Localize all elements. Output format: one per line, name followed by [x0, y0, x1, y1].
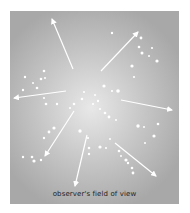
- star-dot: [78, 129, 81, 132]
- star-dot: [40, 78, 43, 81]
- star-dot: [32, 159, 35, 162]
- star-dot: [102, 84, 105, 87]
- star-dot: [155, 59, 158, 62]
- star-dot: [152, 134, 155, 137]
- star-dot: [133, 76, 135, 78]
- star-dot: [43, 70, 46, 73]
- star-dot: [87, 137, 89, 139]
- star-dot: [32, 82, 34, 84]
- arrow-icon: [121, 100, 172, 110]
- star-dot: [140, 37, 143, 40]
- star-dot: [132, 172, 135, 175]
- star-dot: [31, 156, 34, 159]
- star-dot: [144, 142, 146, 144]
- star-dot: [116, 89, 120, 93]
- star-dot: [73, 103, 76, 106]
- star-dot: [52, 126, 55, 129]
- star-dot: [124, 158, 127, 161]
- star-dot: [131, 167, 134, 170]
- star-dot: [109, 138, 111, 140]
- star-dot: [111, 32, 113, 34]
- arrow-icon: [115, 143, 156, 176]
- star-dot: [127, 162, 129, 164]
- arrow-icon: [45, 111, 74, 156]
- star-dot: [44, 77, 46, 79]
- star-expansion-diagram: [0, 0, 190, 213]
- star-dot: [141, 52, 144, 55]
- star-dot: [88, 153, 90, 155]
- arrow-icon: [75, 135, 87, 186]
- star-dot: [45, 103, 48, 106]
- star-dot: [98, 145, 101, 148]
- star-dot: [120, 155, 122, 157]
- star-dot: [111, 90, 113, 92]
- star-dot: [69, 107, 71, 109]
- star-dot: [81, 98, 84, 101]
- star-dot: [138, 46, 141, 49]
- star-dot: [115, 119, 117, 121]
- star-dot: [40, 159, 42, 161]
- arrow-icon: [52, 19, 73, 69]
- star-dot: [118, 150, 121, 153]
- star-dot: [83, 91, 85, 93]
- star-dot: [92, 103, 94, 105]
- star-dot: [88, 147, 91, 150]
- star-dot: [143, 126, 145, 128]
- diagram-caption: observer's field of view: [10, 190, 179, 198]
- motion-arrows: [14, 19, 172, 186]
- star-dot: [99, 108, 101, 110]
- star-dot: [48, 131, 51, 134]
- star-dot: [94, 94, 96, 96]
- star-dot: [97, 100, 99, 102]
- star-dot: [105, 147, 107, 149]
- star-dot: [43, 97, 45, 99]
- star-dot: [56, 103, 58, 105]
- star-dot: [136, 124, 139, 127]
- star-dot: [104, 112, 107, 115]
- star-dot: [22, 89, 24, 91]
- star-dot: [24, 76, 26, 78]
- arrow-icon: [14, 91, 66, 98]
- star-dot: [130, 64, 133, 67]
- star-dot: [43, 137, 45, 139]
- star-dot: [108, 116, 111, 119]
- star-dot: [22, 156, 24, 158]
- star-dot: [36, 87, 39, 90]
- star-dot: [151, 47, 153, 49]
- star-dot: [157, 123, 160, 126]
- star-dot: [148, 55, 150, 57]
